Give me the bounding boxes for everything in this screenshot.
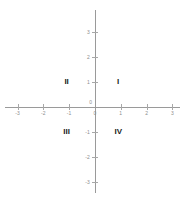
y-axis-tick-label: 1 — [78, 79, 90, 85]
quadrant-label-ii: II — [55, 77, 79, 87]
x-axis-tick-label: 3 — [162, 110, 182, 116]
quadrant-label-iii: III — [55, 127, 79, 137]
y-axis-tick-label: 3 — [78, 29, 90, 35]
origin-label: 0 — [84, 99, 92, 105]
y-axis-tick-label: 2 — [78, 54, 90, 60]
x-axis-tick-label: -1 — [59, 110, 79, 116]
y-axis-tick — [92, 57, 98, 58]
y-axis-tick-label: -1 — [78, 129, 90, 135]
x-axis-line — [5, 107, 180, 108]
quadrant-label-i: I — [106, 77, 130, 87]
y-axis-line — [95, 10, 96, 193]
y-axis-tick — [92, 182, 98, 183]
y-axis-tick — [92, 32, 98, 33]
y-axis-tick-label: -2 — [78, 154, 90, 160]
y-axis-tick-label: -3 — [78, 179, 90, 185]
coordinate-plane-figure: -3-2-10123 321-1-2-3 0 IIIIIIIV — [0, 0, 185, 203]
x-axis-tick-label: 2 — [137, 110, 157, 116]
x-axis-tick-label: -3 — [8, 110, 28, 116]
x-axis-tick-label: 0 — [85, 110, 105, 116]
x-axis-tick-label: 1 — [111, 110, 131, 116]
y-axis-tick — [92, 157, 98, 158]
y-axis-tick — [92, 82, 98, 83]
x-axis-tick-label: -2 — [33, 110, 53, 116]
y-axis-tick — [92, 132, 98, 133]
quadrant-label-iv: IV — [106, 127, 130, 137]
